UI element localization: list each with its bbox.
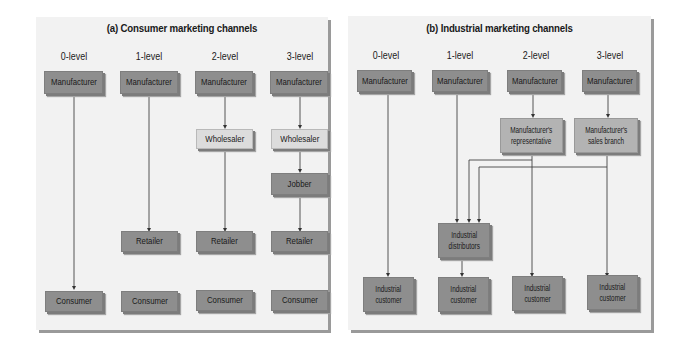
industrial-level-1: 1-level bbox=[435, 49, 486, 61]
box-label: Manufacturer bbox=[587, 76, 633, 87]
consumer-1-consumer: Consumer bbox=[121, 291, 178, 312]
box-label: Retailer bbox=[286, 236, 313, 247]
consumer-3-jobber: Jobber bbox=[271, 173, 328, 195]
box-label-line2: distributors bbox=[448, 241, 479, 252]
box-label-line2: customer bbox=[375, 295, 401, 306]
industrial-level-2: 2-level bbox=[511, 49, 562, 61]
industrial-2-customer: Industrialcustomer bbox=[512, 276, 563, 311]
consumer-2-wholesaler: Wholesaler bbox=[196, 129, 253, 149]
industrial-3-manufacturer: Manufacturer bbox=[582, 70, 637, 92]
consumer-3-retailer: Retailer bbox=[271, 231, 328, 252]
consumer-0-consumer: Consumer bbox=[45, 291, 103, 312]
box-label: Consumer bbox=[282, 295, 318, 306]
industrial-3-customer: Industrialcustomer bbox=[587, 275, 638, 310]
box-label: Manufacturer bbox=[362, 76, 408, 87]
industrial-distributors: Industrialdistributors bbox=[438, 223, 490, 258]
consumer-0-manufacturer: Manufacturer bbox=[44, 71, 103, 94]
industrial-2-manufacturer: Manufacturer bbox=[507, 70, 562, 92]
consumer-level-1: 1-level bbox=[124, 50, 175, 62]
consumer-1-manufacturer: Manufacturer bbox=[120, 71, 178, 94]
box-label: Wholesaler bbox=[280, 134, 319, 145]
box-label: Manufacturer bbox=[201, 77, 247, 88]
box-label: Manufacturer bbox=[126, 77, 172, 88]
industrial-3-sales-branch: Manufacturer'ssales branch bbox=[574, 118, 638, 153]
box-label-line2: representative bbox=[511, 136, 551, 147]
consumer-level-2: 2-level bbox=[200, 50, 251, 62]
consumer-2-consumer: Consumer bbox=[196, 290, 253, 311]
box-label: Manufacturer bbox=[512, 76, 558, 87]
box-label: Consumer bbox=[132, 296, 168, 307]
consumer-level-0: 0-level bbox=[49, 50, 100, 62]
consumer-2-retailer: Retailer bbox=[196, 231, 253, 252]
box-label: Jobber bbox=[288, 179, 312, 190]
industrial-level-0: 0-level bbox=[361, 49, 412, 61]
box-label: Retailer bbox=[211, 236, 238, 247]
box-label: Consumer bbox=[207, 295, 243, 306]
consumer-2-manufacturer: Manufacturer bbox=[195, 71, 253, 94]
box-label: Manufacturer bbox=[51, 77, 97, 88]
consumer-level-3: 3-level bbox=[275, 50, 326, 62]
industrial-1-manufacturer: Manufacturer bbox=[432, 70, 488, 92]
box-label: Manufacturer bbox=[276, 77, 322, 88]
box-label: Consumer bbox=[56, 296, 92, 307]
industrial-1-customer: Industrialcustomer bbox=[438, 277, 489, 312]
industrial-2-representative: Manufacturer'srepresentative bbox=[500, 118, 563, 153]
box-label-line2: customer bbox=[599, 293, 625, 304]
consumer-3-wholesaler: Wholesaler bbox=[271, 129, 328, 149]
consumer-3-consumer: Consumer bbox=[271, 290, 328, 311]
box-label-line2: customer bbox=[524, 294, 550, 305]
box-label-line2: customer bbox=[450, 295, 476, 306]
box-label-line2: sales branch bbox=[588, 136, 624, 147]
consumer-1-retailer: Retailer bbox=[121, 231, 178, 252]
industrial-level-3: 3-level bbox=[585, 49, 636, 61]
box-label: Retailer bbox=[136, 236, 163, 247]
industrial-0-customer: Industrialcustomer bbox=[363, 277, 414, 312]
industrial-0-manufacturer: Manufacturer bbox=[357, 70, 412, 92]
box-label: Manufacturer bbox=[437, 76, 483, 87]
box-label: Wholesaler bbox=[205, 134, 244, 145]
consumer-3-manufacturer: Manufacturer bbox=[270, 71, 328, 94]
